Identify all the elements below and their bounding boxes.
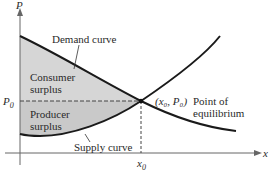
consumer-surplus-label-2: surplus (30, 83, 62, 95)
equilibrium-label-1: Point of (193, 95, 228, 107)
producer-surplus-label-1: Producer (30, 108, 70, 120)
equilibrium-point (139, 99, 143, 103)
p0-label-sub: 0 (10, 101, 14, 110)
p0-label-main: P (3, 95, 10, 107)
x-axis-label: x (263, 147, 268, 159)
supply-demand-diagram: P x Demand curve Consumer surplus Produc… (0, 0, 270, 175)
producer-surplus-label-2: surplus (30, 120, 62, 132)
y-axis-label: P (16, 0, 23, 11)
x0-label-sub: 0 (142, 163, 146, 172)
equilibrium-label-2: equilibrium (193, 107, 244, 119)
supply-curve-label: Supply curve (74, 141, 132, 153)
demand-curve-label: Demand curve (52, 33, 116, 45)
x0-label: x0 (137, 157, 146, 174)
x-axis-arrow (254, 150, 262, 156)
equilibrium-coord-label: (x₀, P₀) (155, 95, 187, 107)
consumer-surplus-label-1: Consumer (30, 71, 75, 83)
p0-label: P0 (3, 95, 14, 112)
